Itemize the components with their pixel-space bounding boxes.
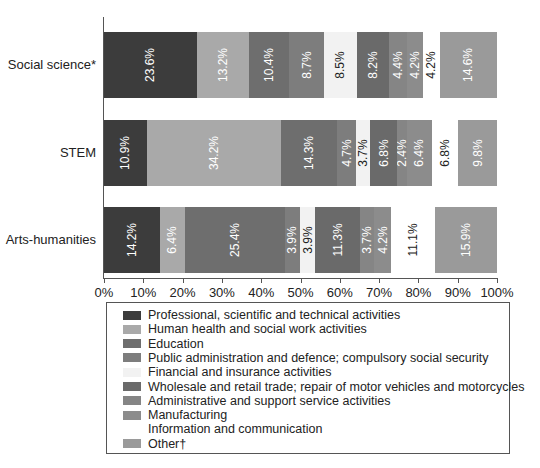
legend-item: Human health and social work activities [123, 322, 367, 336]
legend-item: Education [123, 337, 204, 351]
bar-segment: 4.7% [337, 120, 355, 186]
x-tick-label: 100% [480, 285, 513, 300]
bar-value-label: 4.2% [376, 226, 390, 253]
bar-segment: 9.8% [458, 120, 497, 186]
legend-swatch-icon [123, 325, 141, 334]
bar-segment: 3.9% [285, 207, 300, 273]
bar-value-label: 8.2% [366, 51, 380, 78]
legend-item: Other† [123, 437, 186, 451]
x-tick-label: 60% [327, 285, 353, 300]
bar-value-label: 8.7% [300, 51, 314, 78]
bar-segment: 6.8% [432, 120, 459, 186]
bar-value-label: 3.7% [356, 139, 370, 166]
x-tick [104, 278, 105, 283]
legend-label: Education [148, 337, 204, 351]
x-tick [497, 278, 498, 283]
bar-value-label: 10.4% [262, 48, 276, 82]
x-tick-label: 80% [405, 285, 431, 300]
bar-value-label: 14.6% [461, 48, 475, 82]
legend-label: Information and communication [148, 422, 322, 436]
x-tick [143, 278, 144, 283]
bar-segment: 23.6% [104, 32, 197, 98]
category-label: Arts-humanities [6, 232, 96, 247]
bar-segment: 3.7% [356, 120, 371, 186]
x-tick-label: 30% [209, 285, 235, 300]
legend-item: Financial and insurance activities [123, 365, 331, 379]
bar-value-label: 11.3% [331, 223, 345, 256]
legend-swatch-icon [123, 425, 141, 434]
x-tick-label: 0% [95, 285, 114, 300]
legend-label: Wholesale and retail trade; repair of mo… [148, 380, 525, 394]
x-tick [301, 278, 302, 283]
legend-item: Manufacturing [123, 408, 227, 422]
bar-value-label: 14.3% [302, 136, 316, 170]
bar-segment: 14.6% [440, 32, 497, 98]
bar-segment: 8.5% [324, 32, 357, 98]
bar-value-label: 15.9% [459, 223, 473, 257]
legend-label: Human health and social work activities [148, 322, 367, 336]
bar-value-label: 6.4% [412, 139, 426, 166]
bar-segment: 10.9% [104, 120, 147, 186]
bar-segment: 3.9% [300, 207, 315, 273]
legend-swatch-icon [123, 411, 141, 420]
bar-value-label: 6.4% [165, 226, 179, 253]
x-tick [222, 278, 223, 283]
legend-item: Wholesale and retail trade; repair of mo… [123, 380, 525, 394]
bar-segment: 4.2% [407, 32, 424, 98]
legend-label: Professional, scientific and technical a… [148, 308, 400, 322]
bar-segment: 4.2% [374, 207, 391, 273]
bar-segment: 34.2% [147, 120, 281, 186]
bar-value-label: 3.9% [285, 226, 299, 253]
legend-swatch-icon [123, 368, 141, 377]
legend-item: Administrative and support service activ… [123, 394, 390, 408]
bar-segment: 4.2% [423, 32, 440, 98]
x-tick-label: 50% [287, 285, 313, 300]
bar-value-label: 4.2% [408, 51, 422, 78]
legend-label: Administrative and support service activ… [148, 394, 390, 408]
x-tick-label: 40% [248, 285, 274, 300]
bar-value-label: 4.2% [424, 51, 438, 78]
bar-segment: 3.7% [360, 207, 375, 273]
bar-segment: 6.4% [407, 120, 432, 186]
bar-value-label: 4.7% [340, 139, 354, 166]
x-tick [340, 278, 341, 283]
legend-label: Other† [148, 437, 186, 451]
x-tick [379, 278, 380, 283]
bar-segment: 10.4% [249, 32, 290, 98]
x-tick-label: 20% [170, 285, 196, 300]
legend-label: Financial and insurance activities [148, 365, 331, 379]
bar-value-label: 4.4% [391, 51, 405, 78]
x-tick [261, 278, 262, 283]
bar-segment: 13.2% [197, 32, 249, 98]
legend-item: Public administration and defence; compu… [123, 351, 488, 365]
bar-segment: 25.4% [185, 207, 285, 273]
bar-value-label: 6.8% [438, 139, 452, 166]
x-tick [458, 278, 459, 283]
bar-value-label: 10.9% [118, 136, 132, 170]
legend-swatch-icon [123, 439, 141, 448]
x-tick-label: 70% [366, 285, 392, 300]
bar-segment: 11.1% [391, 207, 435, 273]
bar-value-label: 23.6% [143, 48, 157, 82]
bar-value-label: 14.2% [125, 223, 139, 257]
legend-swatch-icon [123, 382, 141, 391]
bar-segment: 15.9% [435, 207, 497, 273]
bar-value-label: 2.4% [397, 139, 406, 166]
x-tick-label: 90% [445, 285, 471, 300]
bar-value-label: 25.4% [228, 223, 242, 257]
legend-item: Information and communication [123, 422, 322, 436]
bar-segment: 14.2% [104, 207, 160, 273]
bar-segment: 8.2% [357, 32, 389, 98]
bar-value-label: 6.8% [377, 139, 391, 166]
bar-segment: 6.8% [370, 120, 397, 186]
legend-item: Professional, scientific and technical a… [123, 308, 400, 322]
bar-value-label: 8.5% [333, 51, 347, 78]
x-tick-label: 10% [130, 285, 156, 300]
bar-segment: 6.4% [160, 207, 185, 273]
bar-value-label: 11.1% [406, 223, 420, 256]
bar-segment: 11.3% [315, 207, 359, 273]
bar-segment: 4.4% [389, 32, 406, 98]
bar-value-label: 9.8% [471, 139, 485, 166]
legend-label: Public administration and defence; compu… [148, 351, 488, 365]
category-label: Social science* [8, 57, 96, 72]
